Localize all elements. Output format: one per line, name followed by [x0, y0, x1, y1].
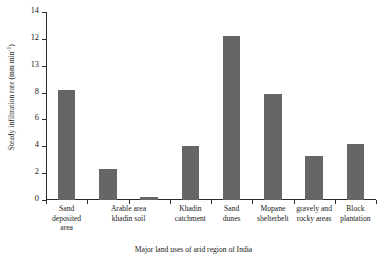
x-axis-category-labels: SanddepositedareaArable areakhadin soilK… — [46, 204, 376, 244]
y-axis-tick-label: 0 — [35, 194, 39, 203]
category-label-line-1: Sand — [35, 204, 99, 214]
y-axis-tick-label: 14 — [31, 6, 39, 15]
bar-mopane-shelterbelt — [264, 94, 281, 200]
y-axis-title-text: Steady infiltration rate (mm min — [7, 51, 16, 150]
bar-chart-figure: Steady infiltration rate (mm min-1) 1412… — [0, 0, 387, 263]
y-axis-tick-label: 6 — [35, 113, 39, 122]
x-axis-category-label: Blockplantation — [323, 204, 387, 223]
y-axis-tick-mark — [42, 39, 46, 40]
y-axis-tick-mark — [42, 93, 46, 94]
y-axis-title-superscript: -1 — [6, 47, 12, 52]
bar-block-plantation — [347, 144, 364, 200]
x-axis-category-label: Sanddepositedarea — [35, 204, 99, 233]
plot-area: 14121386420 — [46, 12, 376, 200]
x-axis-title: Major land uses of arid region of India — [0, 245, 387, 254]
y-axis-title: Steady infiltration rate (mm min-1) — [6, 12, 16, 182]
y-axis-line — [46, 12, 47, 200]
category-label-line-2: khadin soil — [97, 214, 161, 224]
category-label-line-1: Arable area — [97, 204, 161, 214]
bar-khadin-catchment — [182, 146, 199, 200]
y-axis-title-suffix: ) — [7, 44, 16, 47]
category-label-line-2: deposited — [35, 214, 99, 224]
y-axis-tick-label: 12 — [31, 33, 39, 42]
y-axis-tick-mark — [42, 146, 46, 147]
category-label-line-1: Block — [323, 204, 387, 214]
y-axis-tick-label: 8 — [35, 87, 39, 96]
x-axis-category-label: Arable areakhadin soil — [97, 204, 161, 223]
bar-arable-area-khadin-soil — [99, 169, 116, 200]
bar-sand-dunes — [223, 36, 240, 200]
bar-sand-deposited-area — [58, 90, 75, 200]
y-axis-tick-mark — [42, 119, 46, 120]
y-axis-tick-label: 13 — [31, 60, 39, 69]
y-axis-tick-mark — [42, 173, 46, 174]
y-axis-tick-label: 2 — [35, 167, 39, 176]
y-axis-tick-mark — [42, 12, 46, 13]
category-label-line-2: plantation — [323, 214, 387, 224]
bar-gravely-and-rocky-areas — [305, 156, 322, 200]
y-axis-tick-label: 4 — [35, 140, 39, 149]
y-axis-tick-mark — [42, 66, 46, 67]
bar-khadin-catchment-small — [140, 197, 157, 200]
category-label-line-3: area — [35, 223, 99, 233]
